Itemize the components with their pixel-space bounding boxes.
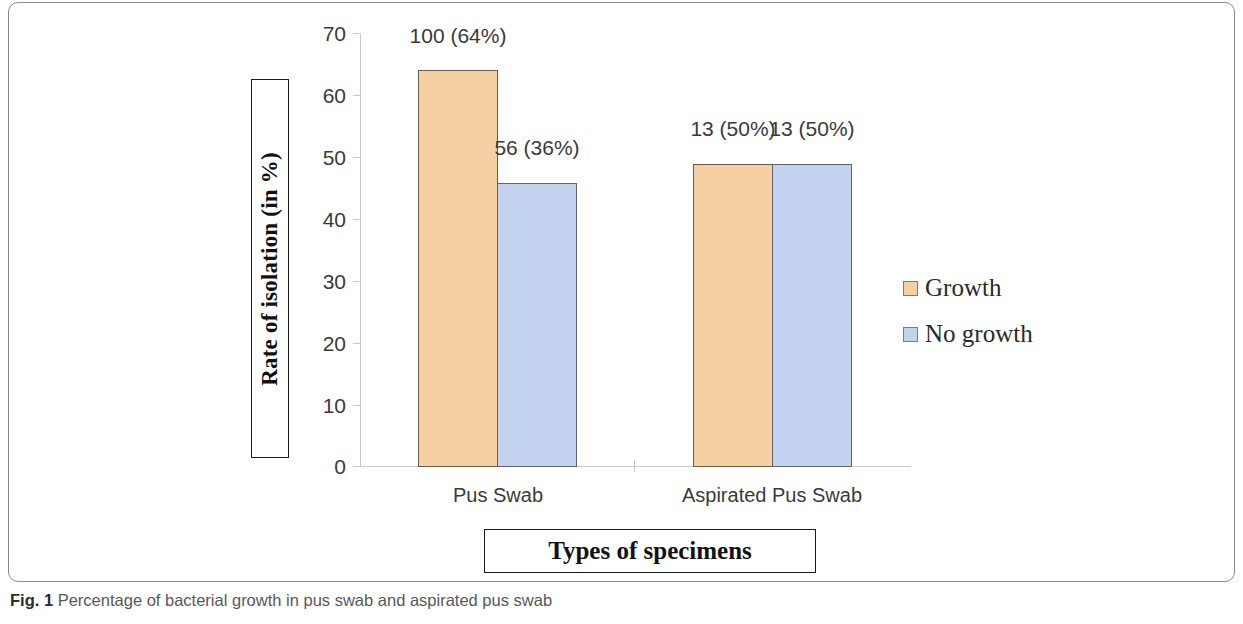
chart-plot-area: 70 60 50 40 30 20 10 0 Rate of isolation…: [0, 0, 1243, 580]
y-axis-tick: [353, 405, 361, 406]
legend-label-growth: Growth: [925, 274, 1001, 302]
y-axis-tick: [353, 157, 361, 158]
bar-growth-aspirated-pus-swab: [693, 164, 773, 467]
x-axis-separator: [634, 460, 635, 472]
legend-item-growth: Growth: [903, 265, 1093, 311]
chart-legend: Growth No growth: [903, 265, 1093, 357]
y-tick-label-10: 10: [290, 395, 346, 416]
y-tick-label-30: 30: [290, 271, 346, 292]
y-axis-line: [360, 33, 361, 466]
legend-item-no-growth: No growth: [903, 311, 1093, 357]
y-axis-tick: [353, 33, 361, 34]
y-tick-label-0: 0: [290, 456, 346, 477]
y-tick-label-40: 40: [290, 209, 346, 230]
y-tick-label-20: 20: [290, 333, 346, 354]
y-axis-tick-labels: 70 60 50 40 30 20 10 0: [280, 0, 346, 480]
x-axis-title-box: Types of specimens: [484, 529, 816, 573]
x-category-label-aspirated-pus-swab: Aspirated Pus Swab: [672, 485, 872, 505]
y-tick-label-70: 70: [290, 23, 346, 44]
data-label-nogrowth-aspirated-pus-swab: 13 (50%): [737, 118, 887, 139]
figure-caption-label: Fig. 1: [10, 591, 53, 609]
y-tick-label-50: 50: [290, 147, 346, 168]
legend-swatch-no-growth-icon: [903, 327, 918, 342]
figure-caption-text: Percentage of bacterial growth in pus sw…: [53, 591, 552, 609]
legend-swatch-growth-icon: [903, 281, 918, 296]
y-tick-label-60: 60: [290, 85, 346, 106]
figure-caption: Fig. 1 Percentage of bacterial growth in…: [10, 590, 1210, 611]
legend-label-no-growth: No growth: [925, 320, 1033, 348]
y-axis-title: Rate of isolation (in %): [257, 152, 283, 386]
y-axis-title-box: Rate of isolation (in %): [251, 79, 289, 458]
y-axis-tick: [353, 95, 361, 96]
data-label-growth-pus-swab: 100 (64%): [378, 25, 538, 46]
y-axis-tick: [353, 281, 361, 282]
bar-growth-pus-swab: [418, 70, 498, 467]
bar-nogrowth-aspirated-pus-swab: [772, 164, 852, 467]
y-axis-tick: [353, 219, 361, 220]
y-axis-tick: [353, 343, 361, 344]
data-label-nogrowth-pus-swab: 56 (36%): [462, 137, 612, 158]
x-axis-title: Types of specimens: [548, 537, 752, 565]
bar-nogrowth-pus-swab: [497, 183, 577, 467]
x-category-label-pus-swab: Pus Swab: [398, 485, 598, 505]
